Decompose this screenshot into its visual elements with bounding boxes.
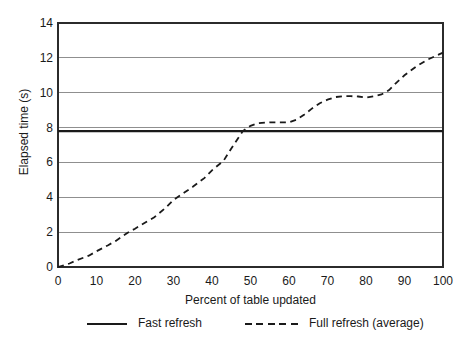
x-tick-label: 70 [321,274,334,288]
y-tick-label: 12 [0,51,53,65]
x-tick-label: 40 [205,274,218,288]
plot-frame [58,23,443,267]
y-tick-label: 0 [0,260,53,274]
dashed-line-swatch [245,323,302,325]
series-line-1 [58,53,443,267]
legend-label-full-refresh: Full refresh (average) [309,316,424,331]
legend-item-fast-refresh: Fast refresh [87,316,202,331]
x-tick-label: 90 [398,274,411,288]
y-tick-label: 14 [0,16,53,30]
legend-item-full-refresh: Full refresh (average) [245,316,424,331]
chart-figure: Elapsed time (s) Percent of table update… [0,0,467,346]
x-tick-label: 60 [282,274,295,288]
solid-line-swatch [87,323,127,325]
y-tick-label: 6 [0,155,53,169]
x-tick-label: 50 [244,274,257,288]
x-tick-label: 80 [359,274,372,288]
y-tick-label: 2 [0,225,53,239]
y-tick-label: 10 [0,86,53,100]
legend-label-fast-refresh: Fast refresh [138,316,202,331]
y-tick-label: 4 [0,190,53,204]
x-tick-label: 30 [167,274,180,288]
x-tick-label: 20 [128,274,141,288]
x-axis-title: Percent of table updated [58,293,443,307]
x-tick-label: 100 [433,274,453,288]
x-tick-label: 0 [55,274,62,288]
x-tick-label: 10 [90,274,103,288]
y-tick-label: 8 [0,121,53,135]
